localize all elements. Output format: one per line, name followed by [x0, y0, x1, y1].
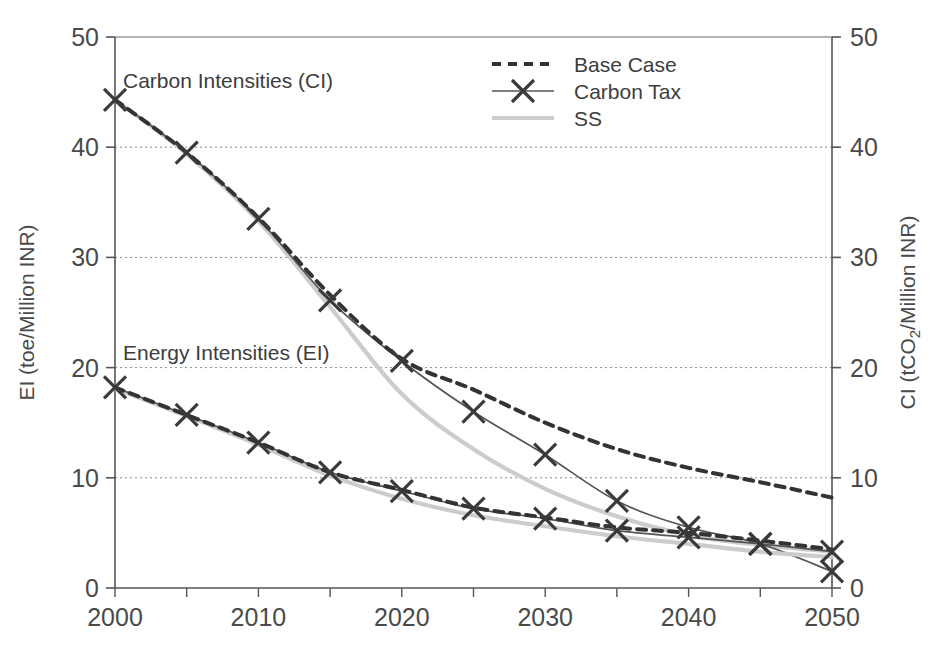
y-tick-label-right: 50 — [850, 23, 878, 51]
data-point-marker — [534, 444, 556, 466]
data-point-marker — [176, 142, 198, 164]
tick-labels: 0010102020303040405050200020102020203020… — [15, 23, 923, 631]
y-tick-label-right: 0 — [850, 574, 864, 602]
left-axis-title: EI (toe/Million INR) — [15, 224, 38, 400]
y-tick-label-left: 20 — [71, 354, 99, 382]
legend-label: Carbon Tax — [574, 80, 682, 103]
legend-label: Base Case — [574, 53, 677, 76]
y-tick-label-right: 20 — [850, 354, 878, 382]
series-line-carbon-tax — [115, 100, 832, 572]
x-tick-label: 2030 — [517, 603, 573, 631]
axes — [106, 37, 841, 597]
x-tick-label: 2040 — [661, 603, 717, 631]
x-tick-label: 2010 — [231, 603, 287, 631]
y-tick-label-left: 40 — [71, 133, 99, 161]
intensity-line-chart: 0010102020303040405050200020102020203020… — [0, 0, 939, 659]
y-tick-label-right: 10 — [850, 464, 878, 492]
legend-entry: Carbon Tax — [492, 80, 682, 103]
x-tick-label: 2020 — [374, 603, 430, 631]
data-point-marker — [391, 350, 413, 372]
legend-entry: Base Case — [492, 53, 677, 76]
right-axis-title: CI (tCO2/Million INR) — [896, 216, 923, 410]
y-tick-label-left: 30 — [71, 243, 99, 271]
y-tick-label-right: 40 — [850, 133, 878, 161]
data-point-marker — [247, 208, 269, 230]
data-series — [104, 89, 843, 583]
y-tick-label-right: 30 — [850, 243, 878, 271]
chart-legend: Base CaseCarbon TaxSS — [492, 53, 682, 130]
svg-text:CI (tCO2/Million INR): CI (tCO2/Million INR) — [896, 216, 923, 410]
chart-annotations: Carbon Intensities (CI)Energy Intensitie… — [123, 69, 333, 364]
series-line-ss — [115, 100, 832, 552]
y-tick-label-left: 50 — [71, 23, 99, 51]
legend-label: SS — [574, 107, 602, 130]
data-point-marker — [606, 490, 628, 512]
y-tick-label-left: 0 — [85, 574, 99, 602]
annotation-carbon-intensities: Carbon Intensities (CI) — [123, 69, 333, 92]
legend-entry: SS — [492, 107, 602, 130]
data-point-marker — [606, 520, 628, 542]
chart-figure: 0010102020303040405050200020102020203020… — [0, 0, 939, 659]
data-point-marker — [463, 401, 485, 423]
annotation-energy-intensities: Energy Intensities (EI) — [123, 341, 330, 364]
y-tick-label-left: 10 — [71, 464, 99, 492]
x-tick-label: 2050 — [804, 603, 860, 631]
x-tick-label: 2000 — [87, 603, 143, 631]
series-line-base-case — [115, 100, 832, 498]
